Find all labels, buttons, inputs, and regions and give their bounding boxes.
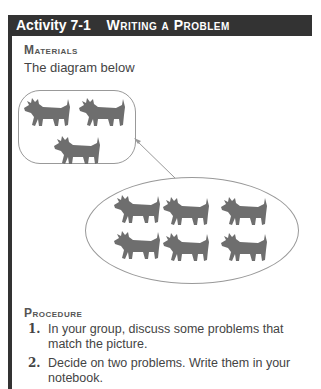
activity-header: Activity 7-1 Writing a Problem [8,15,312,36]
step-number: 1. [28,322,41,337]
step-text: Decide on two problems. Write them in yo… [48,356,290,385]
dog-icon [113,228,163,262]
procedure-heading: Procedure [24,306,82,320]
procedure-step: 2. Decide on two problems. Write them in… [24,356,314,386]
left-border [8,36,12,389]
dog-icon [53,133,103,167]
dog-icon [220,194,270,228]
step-number: 2. [28,356,41,371]
dog-icon [78,95,128,129]
materials-text: The diagram below [24,60,135,75]
dog-icon [23,95,73,129]
activity-title: Writing a Problem [107,17,230,33]
materials-heading: Materials [24,43,78,57]
activity-number: Activity 7-1 [16,17,91,33]
dog-icon [220,230,270,264]
dog-icon [162,230,212,264]
procedure-step: 1. In your group, discuss some problems … [24,322,314,352]
step-text: In your group, discuss some problems tha… [48,322,284,351]
procedure-list: 1. In your group, discuss some problems … [24,322,314,389]
dog-icon [113,192,163,226]
dog-icon [162,194,212,228]
